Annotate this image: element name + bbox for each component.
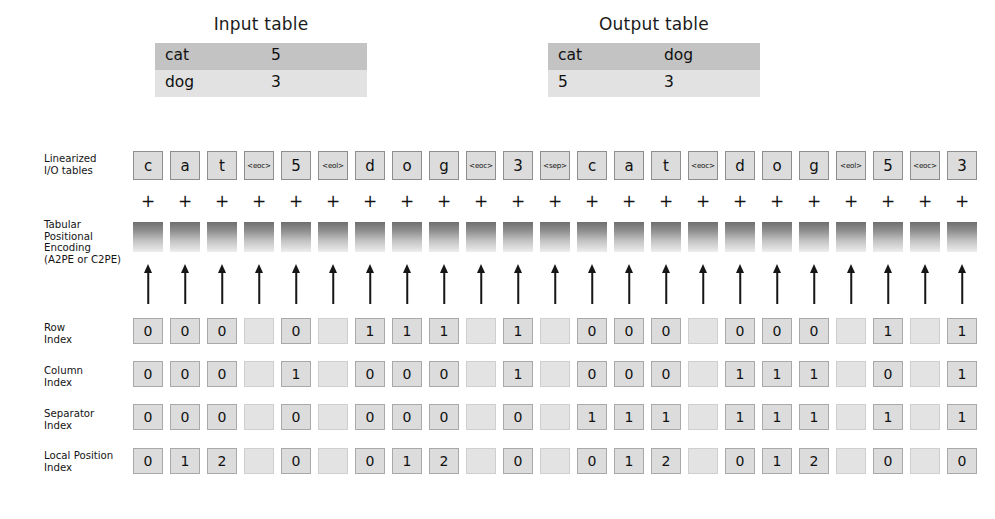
token-cell: d: [725, 151, 755, 180]
up-arrow-icon: [688, 264, 718, 304]
index-cell: 0: [651, 361, 681, 387]
index-cell: 0: [577, 448, 607, 474]
positional-encoding-block: [873, 222, 903, 252]
up-arrow-icon: [651, 264, 681, 304]
token-cell: g: [429, 151, 459, 180]
up-arrow-icon: [947, 264, 977, 304]
index-cell: 2: [429, 448, 459, 474]
index-cell: 0: [133, 404, 163, 430]
positional-encoding-block: [762, 222, 792, 252]
column-index-cell-list: 0001000100011101: [133, 361, 984, 387]
index-cell: 1: [947, 404, 977, 430]
index-cell: 1: [355, 318, 385, 344]
up-arrow-icon: [466, 264, 496, 304]
index-cell: 0: [577, 318, 607, 344]
column-index-row: 0001000100011101: [133, 361, 984, 387]
index-cell: 0: [281, 448, 311, 474]
index-cell: 1: [762, 448, 792, 474]
plus-sign: +: [873, 191, 903, 211]
index-cell: 0: [281, 404, 311, 430]
up-arrow-icon: [318, 264, 348, 304]
plus-sign: +: [577, 191, 607, 211]
index-cell: [836, 448, 866, 474]
index-cell: [910, 318, 940, 344]
up-arrow-icon: [540, 264, 570, 304]
up-arrow-icon: [429, 264, 459, 304]
plus-sign: +: [725, 191, 755, 211]
label-column-index: ColumnIndex: [44, 365, 130, 388]
index-cell: 0: [577, 361, 607, 387]
positional-encoding-block: [170, 222, 200, 252]
plus-sign: +: [614, 191, 644, 211]
positional-encoding-block: [281, 222, 311, 252]
index-cell: 1: [873, 404, 903, 430]
token-cell: c: [133, 151, 163, 180]
local-position-index-cell-list: 0120012001201200: [133, 448, 984, 474]
arrow-row: [133, 264, 984, 304]
positional-encoding-block: [466, 222, 496, 252]
index-cell: [540, 361, 570, 387]
index-cell: 0: [873, 361, 903, 387]
plus-sign: +: [207, 191, 237, 211]
index-cell: 0: [429, 404, 459, 430]
token-cell: <eoc>: [244, 151, 274, 180]
index-cell: [688, 448, 718, 474]
index-cell: [318, 404, 348, 430]
index-cell: 0: [614, 318, 644, 344]
positional-encoding-block: [947, 222, 977, 252]
positional-encoding-block: [836, 222, 866, 252]
plus-sign: +: [133, 191, 163, 211]
plus-sign: +: [429, 191, 459, 211]
index-cell: 0: [725, 318, 755, 344]
index-cell: 0: [429, 361, 459, 387]
index-cell: 0: [170, 361, 200, 387]
plus-sign: +: [503, 191, 533, 211]
index-cell: 0: [799, 318, 829, 344]
index-cell: 1: [281, 361, 311, 387]
index-cell: 0: [873, 448, 903, 474]
index-cell: 0: [392, 361, 422, 387]
index-cell: 0: [170, 404, 200, 430]
plus-sign: +: [466, 191, 496, 211]
up-arrow-icon: [170, 264, 200, 304]
positional-encoding-block: [503, 222, 533, 252]
index-cell: 0: [651, 318, 681, 344]
token-cell: <eoc>: [466, 151, 496, 180]
index-cell: [466, 361, 496, 387]
label-linearized-io-tables: LinearizedI/O tables: [44, 153, 130, 176]
index-cell: 1: [170, 448, 200, 474]
label-row-index: RowIndex: [44, 322, 130, 345]
up-arrow-icon: [762, 264, 792, 304]
index-cell: 1: [503, 361, 533, 387]
up-arrow-icon: [244, 264, 274, 304]
index-cell: 0: [503, 404, 533, 430]
index-cell: [540, 318, 570, 344]
token-cell: <eol>: [836, 151, 866, 180]
up-arrow-icon: [910, 264, 940, 304]
up-arrow-icon: [799, 264, 829, 304]
index-cell: [836, 404, 866, 430]
index-cell: 1: [577, 404, 607, 430]
positional-encoding-block: [614, 222, 644, 252]
separator-index-row: 0000000011111111: [133, 404, 984, 430]
index-cell: 1: [614, 404, 644, 430]
index-cell: 1: [799, 404, 829, 430]
index-cell: [540, 448, 570, 474]
token-cell: 5: [281, 151, 311, 180]
row-index-row: 0000111100000011: [133, 318, 984, 344]
up-arrow-icon: [133, 264, 163, 304]
index-cell: 2: [207, 448, 237, 474]
index-cell: 1: [799, 361, 829, 387]
plus-sign: +: [355, 191, 385, 211]
token-cell: a: [170, 151, 200, 180]
positional-encoding-block: [244, 222, 274, 252]
positional-encoding-block: [392, 222, 422, 252]
index-cell: [688, 318, 718, 344]
index-cell: [466, 404, 496, 430]
positional-encoding-row: [133, 222, 984, 252]
index-cell: 0: [725, 448, 755, 474]
index-cell: 2: [651, 448, 681, 474]
up-arrow-icon: [614, 264, 644, 304]
index-cell: [688, 361, 718, 387]
index-cell: 0: [614, 361, 644, 387]
